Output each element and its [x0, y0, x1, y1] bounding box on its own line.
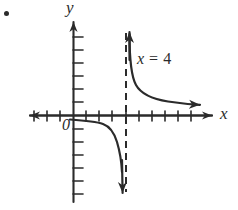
curve-left-branch: [70, 120, 122, 173]
x-axis-label: x: [220, 105, 228, 122]
asymptote-equation-label: x = 4: [137, 51, 172, 67]
coordinate-plane-svg: [0, 0, 238, 210]
graph-figure: y x 0 x = 4: [0, 0, 238, 210]
asymptote-variable: x: [137, 50, 145, 67]
y-axis-label: y: [66, 0, 74, 16]
curve-left-branch-down-arrow: [122, 160, 123, 193]
asymptote-equation-value: = 4: [149, 50, 172, 67]
origin-label: 0: [62, 117, 70, 133]
curve-right-branch: [130, 34, 201, 105]
